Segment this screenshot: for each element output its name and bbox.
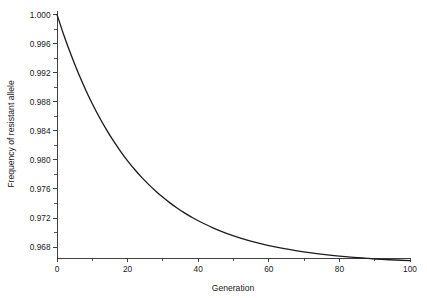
- y-tick-label: 0.968: [30, 242, 51, 252]
- y-tick-label: 0.980: [30, 155, 51, 165]
- y-axis-major-ticks: [53, 15, 57, 247]
- y-axis-tick-labels: 0.9680.9720.9760.9800.9840.9880.9920.996…: [30, 10, 51, 252]
- x-axis-title: Generation: [212, 283, 255, 293]
- line-chart-canvas: 0.9680.9720.9760.9800.9840.9880.9920.996…: [0, 0, 427, 298]
- chart-figure: 0.9680.9720.9760.9800.9840.9880.9920.996…: [0, 0, 427, 298]
- y-tick-label: 0.992: [30, 68, 51, 78]
- x-tick-label: 100: [403, 264, 417, 274]
- y-tick-label: 0.976: [30, 184, 51, 194]
- x-tick-label: 60: [264, 264, 274, 274]
- x-tick-label: 40: [194, 264, 204, 274]
- x-axis-tick-labels: 020406080100: [55, 264, 418, 274]
- y-tick-label: 0.972: [30, 213, 51, 223]
- x-tick-label: 80: [335, 264, 345, 274]
- x-tick-label: 20: [123, 264, 133, 274]
- data-series-line: [57, 15, 410, 261]
- y-tick-label: 0.988: [30, 97, 51, 107]
- y-tick-label: 0.984: [30, 126, 51, 136]
- y-tick-label: 1.000: [30, 10, 51, 20]
- y-tick-label: 0.996: [30, 39, 51, 49]
- x-tick-label: 0: [55, 264, 60, 274]
- y-axis-title: Frequency of resistant allele: [6, 80, 16, 188]
